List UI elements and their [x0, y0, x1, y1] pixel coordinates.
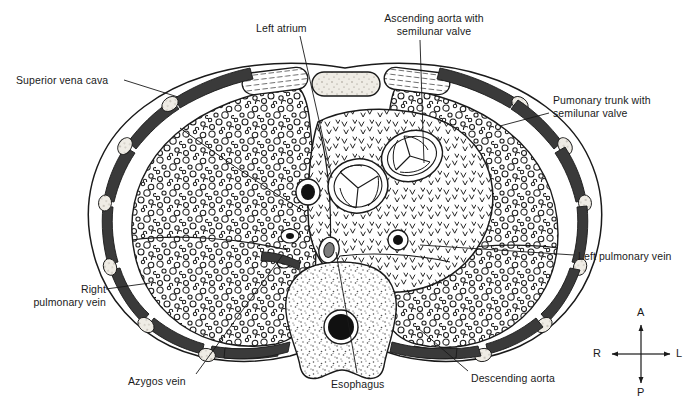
label-pulmonary-trunk: Pumonary trunk with semilunar valve — [553, 94, 651, 119]
label-left-pulmonary-vein: Left pulmonary vein — [578, 250, 672, 263]
label-superior-vena-cava: Superior vena cava — [16, 74, 108, 87]
thoracic-cross-section-figure — [0, 0, 691, 409]
label-descending-aorta: Descending aorta — [471, 372, 555, 385]
label-azygos-vein: Azygos vein — [128, 375, 186, 388]
compass-label-left: L — [676, 347, 682, 359]
compass-label-right: R — [593, 347, 601, 359]
left-pulmonary-vein-lumen — [393, 235, 403, 245]
spinal-cord — [328, 314, 354, 340]
compass-label-posterior: P — [637, 386, 644, 398]
svc-lumen — [301, 184, 315, 200]
label-esophagus: Esophagus — [331, 378, 384, 391]
label-ascending-aorta: Ascending aorta with semilunar valve — [364, 12, 504, 37]
label-left-atrium: Left atrium — [256, 22, 307, 35]
label-right-pulmonary-vein: Right pulmonary vein — [14, 283, 106, 308]
sternum — [312, 72, 380, 96]
compass-label-anterior: A — [637, 306, 644, 318]
